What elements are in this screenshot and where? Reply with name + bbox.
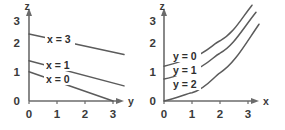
right-ztick-label-2: 2 xyxy=(150,37,156,49)
right-series-label-y2: y = 2 xyxy=(173,78,197,90)
left-chart-svg: 0 1 2 3 0 1 2 3 z y x = 3 x = 1 x = 0 xyxy=(0,0,143,130)
left-y-axis-label: y xyxy=(128,95,134,107)
left-ztick-label-2: 2 xyxy=(14,37,20,49)
right-xtick-label-1: 1 xyxy=(189,108,196,120)
right-ztick-label-3: 3 xyxy=(150,15,156,27)
left-data-line-x1 xyxy=(29,61,124,86)
left-ztick-label-3: 3 xyxy=(14,15,20,27)
left-y-axis-arrow-icon xyxy=(116,98,124,104)
right-chart-svg: 0 1 2 3 0 1 2 3 z x y = 0 y = 1 y = 2 xyxy=(142,0,285,130)
right-xtick-label-3: 3 xyxy=(245,108,251,120)
figure-container: 0 1 2 3 0 1 2 3 z y x = 3 x = 1 x = 0 xyxy=(0,0,285,130)
right-series-label-y0: y = 0 xyxy=(173,50,197,62)
left-ytick-label-0: 0 xyxy=(26,108,32,120)
left-ztick-label-1: 1 xyxy=(14,66,21,78)
right-x-axis-arrow-icon xyxy=(251,98,259,104)
left-series-label-x3: x = 3 xyxy=(47,33,71,45)
left-ztick-label-0: 0 xyxy=(14,95,20,107)
right-x-axis-label: x xyxy=(263,95,269,107)
left-ytick-label-3: 3 xyxy=(110,108,116,120)
left-ytick-label-1: 1 xyxy=(54,108,61,120)
right-z-axis-label: z xyxy=(159,0,164,12)
right-series-label-y1: y = 1 xyxy=(173,64,197,76)
left-series-label-x1: x = 1 xyxy=(46,59,70,71)
right-xtick-label-0: 0 xyxy=(161,108,167,120)
right-ztick-label-1: 1 xyxy=(150,66,157,78)
left-z-axis-label: z xyxy=(24,0,29,12)
chart-panel-left: 0 1 2 3 0 1 2 3 z y x = 3 x = 1 x = 0 xyxy=(0,0,143,130)
left-data-line-x3 xyxy=(29,34,124,54)
left-ytick-label-2: 2 xyxy=(82,108,88,120)
right-ztick-label-0: 0 xyxy=(150,95,156,107)
left-series-label-x0: x = 0 xyxy=(46,73,70,85)
chart-panel-right: 0 1 2 3 0 1 2 3 z x y = 0 y = 1 y = 2 xyxy=(142,0,285,130)
right-xtick-label-2: 2 xyxy=(217,108,223,120)
